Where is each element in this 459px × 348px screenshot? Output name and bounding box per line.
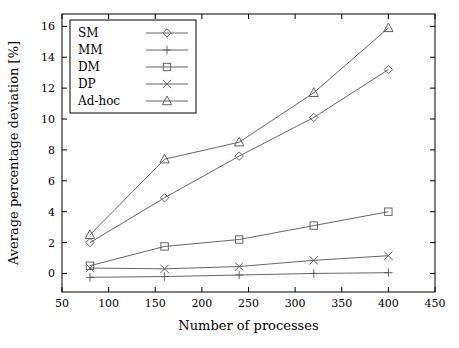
y-tick-label: 14 bbox=[41, 51, 55, 64]
series-line-dm bbox=[90, 212, 388, 266]
legend-marker-ad-hoc bbox=[162, 96, 171, 105]
x-tick-label: 300 bbox=[285, 297, 306, 310]
x-tick-label: 450 bbox=[425, 297, 446, 310]
legend-label-mm: MM bbox=[78, 43, 103, 57]
y-tick-label: 4 bbox=[48, 206, 55, 219]
x-tick-label: 50 bbox=[55, 297, 69, 310]
legend-label-dp: DP bbox=[78, 77, 96, 91]
plot-frame bbox=[62, 14, 435, 292]
y-tick-label: 6 bbox=[48, 175, 55, 188]
x-tick-label: 250 bbox=[238, 297, 259, 310]
series-line-sm bbox=[90, 70, 388, 243]
x-tick-label: 150 bbox=[145, 297, 166, 310]
y-tick-label: 2 bbox=[48, 237, 55, 250]
x-tick-label: 100 bbox=[98, 297, 119, 310]
x-axis-title: Number of processes bbox=[178, 318, 318, 333]
x-tick-label: 400 bbox=[378, 297, 399, 310]
y-tick-label: 8 bbox=[48, 144, 55, 157]
chart-container: 501001502002503003504004500246810121416N… bbox=[0, 0, 459, 348]
legend-label-ad-hoc: Ad-hoc bbox=[77, 94, 120, 108]
data-point-ad-hoc bbox=[234, 137, 243, 146]
x-tick-label: 350 bbox=[331, 297, 352, 310]
y-tick-label: 16 bbox=[41, 20, 55, 33]
legend-label-sm: SM bbox=[78, 26, 99, 40]
series-line-ad-hoc bbox=[90, 28, 388, 235]
legend-label-dm: DM bbox=[78, 60, 100, 74]
y-tick-label: 12 bbox=[41, 82, 55, 95]
y-axis-title: Average percentage deviation [%] bbox=[6, 41, 21, 266]
y-tick-label: 0 bbox=[48, 267, 55, 280]
line-chart: 501001502002503003504004500246810121416N… bbox=[0, 0, 459, 348]
x-tick-label: 200 bbox=[191, 297, 212, 310]
y-tick-label: 10 bbox=[41, 113, 55, 126]
